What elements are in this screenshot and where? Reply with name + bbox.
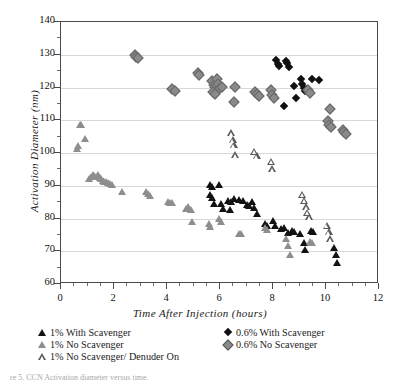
x-tick-label: 10 — [310, 292, 340, 303]
legend-item-label: 0.6% No Scavenger — [234, 339, 317, 350]
x-minor-tick — [73, 283, 74, 286]
diamond-filled-gray-icon — [222, 339, 234, 351]
x-tick — [60, 283, 61, 289]
x-tick-label: 12 — [363, 292, 393, 303]
x-minor-tick — [299, 283, 300, 286]
data-point — [304, 87, 315, 98]
marker-glyph — [38, 329, 46, 336]
marker-glyph — [38, 341, 46, 348]
legend-item-label: 1% No Scavenger/ Denuder On — [48, 351, 179, 362]
data-point — [322, 116, 333, 127]
x-minor-tick — [232, 283, 233, 286]
data-point — [228, 97, 239, 108]
y-tick-label: 140 — [15, 15, 55, 25]
data-point — [268, 92, 279, 103]
triangle-filled-gray-icon — [36, 339, 48, 351]
data-point — [249, 86, 260, 97]
x-tick-label: 4 — [151, 292, 181, 303]
x-axis-title: Time After Injection (hours) — [0, 307, 400, 319]
legend-item[interactable]: 1% No Scavenger — [36, 338, 179, 350]
diamond-filled-black-icon — [222, 326, 234, 338]
x-tick — [219, 283, 220, 289]
series-4 — [61, 22, 377, 282]
x-tick-label: 0 — [45, 292, 75, 303]
x-minor-tick — [312, 283, 313, 286]
x-minor-tick — [365, 283, 366, 286]
data-point — [251, 88, 262, 99]
data-point — [208, 79, 219, 90]
data-point — [253, 90, 264, 101]
x-tick — [325, 283, 326, 289]
legend-item-label: 1% No Scavenger — [48, 339, 124, 350]
y-tick-label: 70 — [15, 244, 55, 254]
x-minor-tick — [285, 283, 286, 286]
data-point — [214, 82, 225, 93]
data-point — [267, 89, 278, 100]
marker-glyph — [38, 353, 46, 360]
data-point — [169, 85, 180, 96]
data-point — [207, 87, 218, 98]
y-tick-label: 130 — [15, 48, 55, 58]
triangle-filled-black-icon — [36, 326, 48, 338]
data-point — [132, 53, 143, 64]
legend-item[interactable]: 0.6% With Scavenger — [222, 326, 325, 338]
x-tick — [113, 283, 114, 289]
data-point — [303, 84, 314, 95]
y-tick-label: 90 — [15, 179, 55, 189]
x-minor-tick — [352, 283, 353, 286]
y-tick-label: 100 — [15, 146, 55, 156]
plot-area — [60, 21, 378, 283]
x-tick — [378, 283, 379, 289]
x-minor-tick — [246, 283, 247, 286]
data-point — [209, 89, 220, 100]
data-point — [131, 51, 142, 62]
data-point — [209, 81, 220, 92]
data-point — [192, 67, 203, 78]
legend-item-label: 0.6% With Scavenger — [234, 327, 325, 338]
data-point — [325, 104, 336, 115]
figure-container: Activation Diameter (nm) 607080901001101… — [0, 0, 400, 385]
x-minor-tick — [153, 283, 154, 286]
marker-glyph — [224, 328, 232, 336]
data-point — [216, 81, 227, 92]
x-minor-tick — [87, 283, 88, 286]
legend-column-left: 1% With Scavenger1% No Scavenger1% No Sc… — [36, 326, 179, 363]
x-tick-label: 2 — [98, 292, 128, 303]
figure-caption: re 5. CCN Activation diameter versus tim… — [10, 373, 400, 382]
legend-item-label: 1% With Scavenger — [48, 327, 131, 338]
x-tick — [272, 283, 273, 289]
triangle-open-icon — [36, 351, 48, 363]
x-tick-label: 8 — [257, 292, 287, 303]
chart-legend: 1% With Scavenger1% No Scavenger1% No Sc… — [0, 326, 400, 370]
data-point — [129, 49, 140, 60]
x-minor-tick — [126, 283, 127, 286]
marker-glyph — [222, 339, 233, 350]
legend-item[interactable]: 1% No Scavenger/ Denuder On — [36, 351, 179, 363]
data-point — [206, 75, 217, 86]
data-point — [340, 128, 351, 139]
data-point — [213, 78, 224, 89]
x-minor-tick — [338, 283, 339, 286]
data-point — [339, 126, 350, 137]
x-minor-tick — [100, 283, 101, 286]
x-tick-label: 6 — [204, 292, 234, 303]
data-point — [323, 120, 334, 131]
x-tick — [166, 283, 167, 289]
y-tick-label: 80 — [15, 212, 55, 222]
x-minor-tick — [140, 283, 141, 286]
y-tick-label: 120 — [15, 81, 55, 91]
data-point — [337, 124, 348, 135]
legend-item[interactable]: 1% With Scavenger — [36, 326, 179, 338]
x-minor-tick — [206, 283, 207, 286]
x-minor-tick — [193, 283, 194, 286]
data-point — [167, 83, 178, 94]
data-point — [211, 74, 222, 85]
legend-item[interactable]: 0.6% No Scavenger — [222, 338, 325, 350]
y-tick-label: 110 — [15, 113, 55, 123]
legend-column-right: 0.6% With Scavenger0.6% No Scavenger — [222, 326, 325, 351]
x-minor-tick — [259, 283, 260, 286]
data-point — [265, 85, 276, 96]
data-point — [325, 121, 336, 132]
y-tick-label: 60 — [15, 277, 55, 287]
data-point — [229, 82, 240, 93]
